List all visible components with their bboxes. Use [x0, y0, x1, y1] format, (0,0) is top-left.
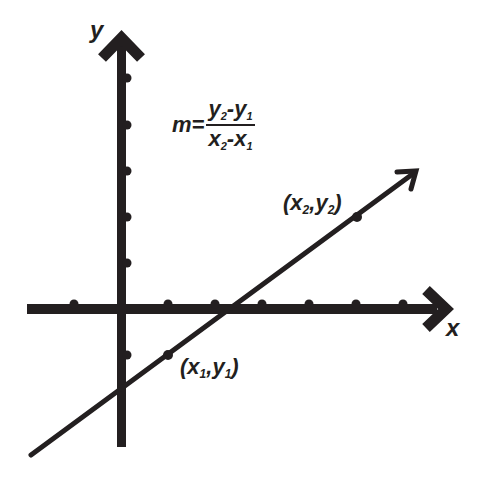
slope-diagram: y x m= y2-y1 x2-x1 (x2,y2) (x1,y1) [0, 0, 490, 480]
point-1-marker [163, 350, 173, 360]
point-2-label: (x2,y2) [283, 192, 342, 216]
y-axis-label: y [90, 18, 103, 42]
formula-denominator: x2-x1 [206, 128, 254, 152]
formula-fraction: y2-y1 x2-x1 [206, 98, 254, 152]
point-1-label: (x1,y1) [180, 356, 239, 380]
coordinate-plane [0, 0, 490, 480]
x-axis [27, 290, 446, 328]
point-2-marker [352, 212, 362, 222]
formula-lhs: m= [172, 114, 204, 136]
formula-numerator: y2-y1 [206, 98, 254, 122]
x-axis-label: x [446, 316, 459, 340]
slope-formula: m= y2-y1 x2-x1 [172, 98, 255, 152]
